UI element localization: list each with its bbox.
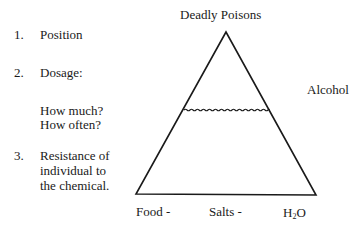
toxicity-triangle [0,0,364,232]
apex-label: Deadly Poisons [180,7,261,22]
base-label-salts: Salts - [209,204,242,219]
base-label-water: H2O [283,205,306,224]
side-label: Alcohol [307,82,349,97]
threshold-wavy-line [184,109,269,111]
water-o: O [296,205,305,220]
base-label-food: Food - [136,204,170,219]
triangle-outline [136,32,316,195]
water-h: H [283,205,292,220]
